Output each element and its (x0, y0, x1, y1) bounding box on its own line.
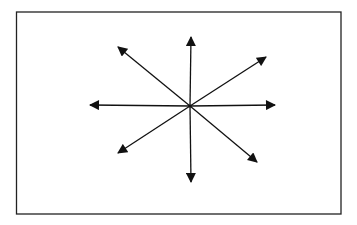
arrow-down-right-icon (190, 106, 257, 162)
radiating-arrows-diagram (0, 0, 357, 225)
arrow-group (90, 37, 275, 182)
arrow-down-icon (190, 106, 191, 182)
arrow-left-icon (90, 105, 190, 106)
center-point (188, 104, 191, 107)
arrow-up-left-icon (118, 47, 190, 106)
arrow-down-left-icon (118, 106, 190, 153)
arrow-up-icon (190, 37, 191, 106)
arrow-up-right-icon (190, 57, 266, 106)
arrow-right-icon (190, 105, 275, 106)
